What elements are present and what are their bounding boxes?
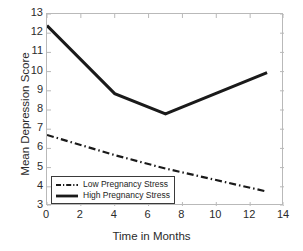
y-tick-label: 11 (3, 45, 43, 56)
y-tick-label: 8 (3, 103, 43, 114)
x-tick-label: 10 (200, 209, 230, 220)
series-line-2 (47, 26, 267, 114)
y-tick-label: 13 (3, 7, 43, 18)
x-tick-label: 2 (65, 209, 95, 220)
legend-box[interactable]: Low Pregnancy Stress High Pregnancy Stre… (51, 176, 175, 204)
legend-swatch-dash-dot (55, 180, 79, 190)
data-series-group (47, 26, 267, 192)
x-tick-label: 14 (268, 209, 298, 220)
y-tick-label: 7 (3, 122, 43, 133)
y-tick-label: 9 (3, 84, 43, 95)
legend-swatch-solid (55, 191, 79, 201)
y-tick-label: 4 (3, 180, 43, 191)
y-tick-label: 5 (3, 161, 43, 172)
x-tick-label: 8 (166, 209, 196, 220)
legend-item-low: Low Pregnancy Stress (55, 179, 170, 190)
x-tick-label: 4 (99, 209, 129, 220)
x-tick-label: 0 (31, 209, 61, 220)
y-tick-label: 10 (3, 65, 43, 76)
legend-label-high: High Pregnancy Stress (83, 191, 170, 200)
legend-label-low: Low Pregnancy Stress (83, 180, 168, 189)
x-tick-label: 12 (234, 209, 264, 220)
figure-canvas: Mean Depression Score 345678910111213 02… (0, 0, 303, 251)
y-tick-label: 6 (3, 141, 43, 152)
x-axis-label: Time in Months (0, 230, 303, 242)
y-tick-label: 12 (3, 26, 43, 37)
x-tick-label: 6 (133, 209, 163, 220)
legend-item-high: High Pregnancy Stress (55, 190, 170, 201)
